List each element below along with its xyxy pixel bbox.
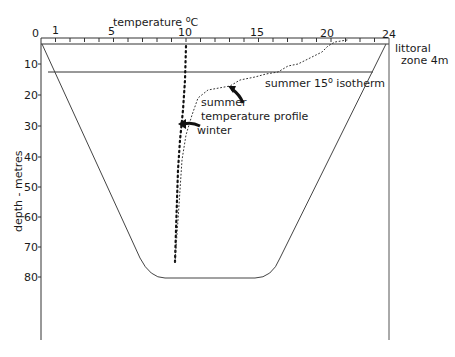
summer-profile-curve [175,40,347,262]
y-tick-50: 50 [24,181,38,194]
y-tick-40: 40 [24,151,38,164]
lake-temperature-diagram: temperature oC 0 1 5 10 15 20 24 10 20 3… [0,0,455,357]
x-tick-5: 5 [108,25,115,38]
y-tick-10: 10 [24,58,38,71]
x-tick-15: 15 [250,26,264,39]
y-tick-70: 70 [24,241,38,254]
y-axis-title: depth - metres [12,150,25,232]
depth-axis [38,38,41,340]
summer-label: summer [201,96,247,109]
y-tick-20: 20 [24,89,38,102]
littoral-zone-label: zone 4m [401,54,448,67]
x-tick-1: 1 [52,24,59,37]
winter-profile-curve [175,46,186,262]
temperature-profile-label: temperature profile [201,110,309,123]
y-tick-60: 60 [24,211,38,224]
winter-label: winter [197,124,232,137]
y-tick-30: 30 [24,120,38,133]
x-tick-0: 0 [32,27,39,40]
x-tick-10: 10 [178,26,192,39]
x-tick-20: 20 [320,27,334,40]
temperature-scale-bar [41,38,389,44]
y-tick-80: 80 [24,271,38,284]
